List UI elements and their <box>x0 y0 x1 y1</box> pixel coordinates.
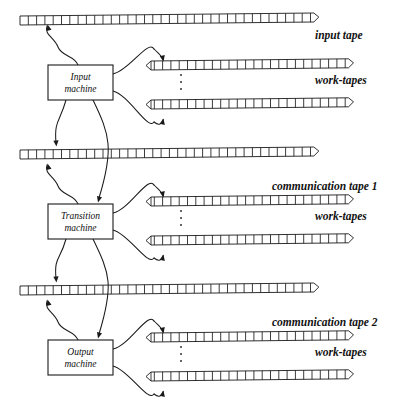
tape-outline <box>146 59 354 70</box>
input-machine-frame[interactable] <box>48 65 113 100</box>
labels-layer: input tapework-tapescommunication tape 1… <box>272 29 378 359</box>
comm-tape-1-write-arrowhead <box>53 140 58 146</box>
transition-machine[interactable]: Transitionmachine <box>48 204 113 239</box>
tape-work-tape-2a <box>146 195 354 206</box>
transition-machine-label-line2: machine <box>64 223 96 233</box>
vdots-2 <box>180 210 182 226</box>
label-work_tapes_3: work-tapes <box>315 346 367 359</box>
output-machine-worktape-lower-arrowhead <box>160 391 165 397</box>
transition-machine-frame[interactable] <box>48 204 113 239</box>
input-machine-label-line1: Input <box>69 72 90 82</box>
tape-outline <box>146 195 354 206</box>
tape-work-tape-2b <box>146 234 354 245</box>
ellipsis-dot <box>180 210 182 212</box>
tape-communication-tape-2 <box>20 283 319 295</box>
tape-work-tape-1b <box>146 98 354 109</box>
output-machine-in-arrowhead <box>97 332 102 338</box>
ellipsis-dot <box>180 81 182 83</box>
tape-outline <box>146 331 354 342</box>
machines-layer: InputmachineTransitionmachineOutputmachi… <box>48 65 113 375</box>
comm-tape-2-write-arrowhead <box>53 276 58 282</box>
input-machine-label-line2: machine <box>64 84 96 94</box>
output-machine-to-worktape-lower-curve <box>113 366 154 396</box>
output-machine-to-comm-tape-2-curve <box>46 301 78 340</box>
tape-outline <box>146 98 354 109</box>
transition-machine-worktape-lower-arrowhead <box>160 255 165 261</box>
label-communication_tape_1: communication tape 1 <box>272 180 377 193</box>
input-machine-to-comm-tape-1-curve <box>56 100 66 143</box>
input-machine-worktape-lower-arrowhead <box>160 119 165 125</box>
input-machine-to-input-tape-curve <box>46 26 78 65</box>
output-machine-label-line2: machine <box>64 359 96 369</box>
label-work_tapes_1: work-tapes <box>315 74 367 87</box>
output-machine-to-worktape-upper-curve <box>113 319 154 349</box>
label-work_tapes_2: work-tapes <box>315 210 367 223</box>
output-machine[interactable]: Outputmachine <box>48 340 113 375</box>
tape-outline <box>146 370 354 381</box>
ellipsis-dot <box>180 74 182 76</box>
tape-outline <box>146 234 354 245</box>
vdots-1 <box>180 74 182 90</box>
transition-machine-to-worktape-lower-curve <box>113 230 154 260</box>
tape-work-tape-3a <box>146 331 354 342</box>
transition-machine-to-comm-tape-1-curve <box>46 165 78 204</box>
output-machine-frame[interactable] <box>48 340 113 375</box>
ellipsis-dot <box>180 353 182 355</box>
ellipsis-layer <box>180 74 182 362</box>
input-machine[interactable]: Inputmachine <box>48 65 113 100</box>
tape-input-tape <box>20 13 319 25</box>
ellipsis-dot <box>180 224 182 226</box>
ellipsis-dot <box>180 346 182 348</box>
ellipsis-dot <box>180 88 182 90</box>
output-machine-label-line1: Output <box>67 347 94 357</box>
ellipsis-dot <box>180 217 182 219</box>
input-machine-to-worktape-upper-curve <box>113 47 154 74</box>
ellipsis-dot <box>180 360 182 362</box>
machine-tape-diagram: InputmachineTransitionmachineOutputmachi… <box>0 0 414 406</box>
label-communication_tape_2: communication tape 2 <box>272 316 378 329</box>
diagram-canvas: InputmachineTransitionmachineOutputmachi… <box>0 0 414 406</box>
comm-tape-2-read-arrowhead <box>47 300 52 306</box>
transition-machine-to-comm-tape-2-curve <box>56 239 66 279</box>
tape-work-tape-3b <box>146 370 354 381</box>
transition-machine-label-line1: Transition <box>61 211 100 221</box>
tape-work-tape-1a <box>146 59 354 70</box>
label-input_tape: input tape <box>315 29 363 42</box>
comm-tape-1-read-arrowhead <box>47 164 52 170</box>
input-tape-read-arrowhead <box>47 25 52 31</box>
transition-machine-in-arrowhead <box>97 196 102 202</box>
tape-communication-tape-1 <box>20 147 319 159</box>
transition-machine-to-worktape-upper-curve <box>113 183 154 213</box>
input-machine-to-worktape-lower-curve <box>113 91 154 123</box>
vdots-3 <box>180 346 182 362</box>
